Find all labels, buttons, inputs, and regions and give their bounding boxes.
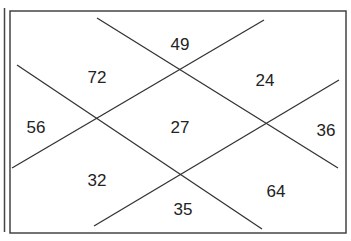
line-a [97, 18, 338, 168]
region-label-bottom: 35 [174, 201, 193, 218]
region-label-upper-right: 24 [256, 72, 275, 89]
region-label-lower-left: 32 [88, 172, 107, 189]
region-label-lower-right: 64 [267, 183, 286, 200]
line-d [94, 80, 339, 226]
line-c [17, 65, 262, 229]
region-label-left: 56 [27, 119, 46, 136]
region-label-right: 36 [317, 122, 336, 139]
region-label-upper-left: 72 [88, 69, 107, 86]
region-label-top: 49 [171, 36, 190, 53]
region-label-center: 27 [171, 119, 190, 136]
